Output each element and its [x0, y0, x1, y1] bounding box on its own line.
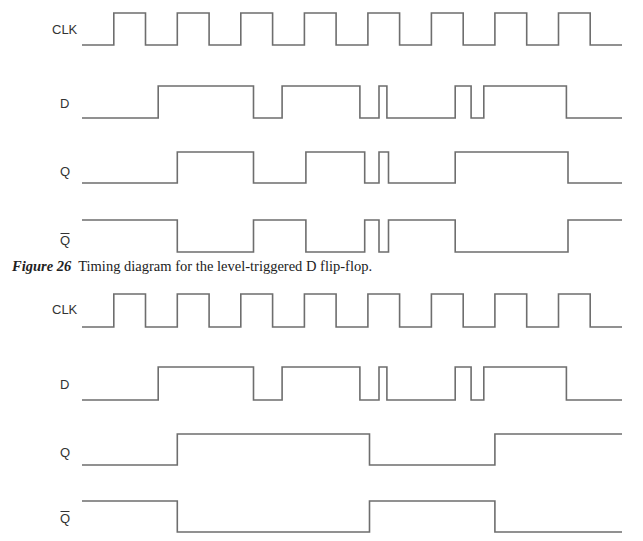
waveform-q-bar: [82, 501, 622, 532]
figure-label: Figure 26: [12, 258, 71, 274]
waveform-clk: [82, 294, 622, 327]
signal-label-q: Q: [60, 445, 70, 460]
signal-label-q-bar: Q: [60, 511, 70, 526]
signal-label-q-bar: Q: [60, 233, 70, 248]
signal-label-d: D: [60, 377, 69, 392]
waveform-q-bar: [82, 220, 622, 252]
diagram-edge-triggered: CLKDQQ: [52, 294, 622, 532]
signal-label-q: Q: [60, 164, 70, 179]
figure-caption: Figure 26 Timing diagram for the level-t…: [12, 258, 372, 275]
caption-text: Timing diagram for the level-triggered D…: [78, 258, 372, 274]
waveform-q: [82, 434, 622, 465]
diagram-level-triggered: CLKDQQ: [52, 13, 622, 252]
waveform-d: [82, 86, 622, 118]
signal-label-d: D: [60, 96, 69, 111]
waveform-q: [82, 152, 622, 183]
signal-label-clk: CLK: [52, 22, 78, 37]
waveform-d: [82, 367, 622, 400]
signal-label-clk: CLK: [52, 302, 78, 317]
waveform-clk: [82, 13, 622, 45]
